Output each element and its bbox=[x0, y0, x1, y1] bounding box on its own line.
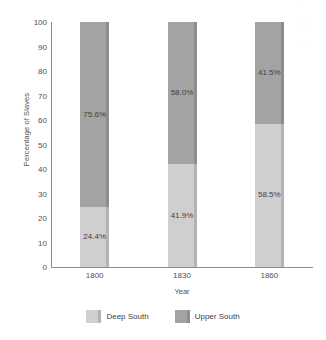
stacked-bar[interactable]: 41.9%58.0% bbox=[168, 22, 197, 267]
bar-segment-deep-south[interactable]: 58.5% bbox=[255, 124, 284, 267]
y-tick-label: 40 bbox=[3, 165, 47, 174]
x-axis-line bbox=[51, 267, 313, 268]
x-axis-title: Year bbox=[51, 287, 313, 296]
x-axis-tick-labels: 180018301860 bbox=[51, 271, 313, 287]
y-tick-label: 100 bbox=[3, 18, 47, 27]
y-tick-label: 80 bbox=[3, 67, 47, 76]
bar-segment-label: 58.0% bbox=[168, 88, 197, 97]
y-tick-label: 0 bbox=[3, 263, 47, 272]
bar-group: 41.9%58.0% bbox=[168, 22, 197, 267]
scan-artifact: ·· bbox=[301, 28, 305, 34]
y-tick-label: 30 bbox=[3, 189, 47, 198]
bar-segment-label: 41.5% bbox=[255, 68, 284, 77]
bar-group: 58.5%41.5% bbox=[255, 22, 284, 267]
bars-layer: 24.4%75.6%41.9%58.0%58.5%41.5% bbox=[51, 22, 313, 267]
legend-label: Deep South bbox=[106, 312, 148, 321]
y-tick-label: 60 bbox=[3, 116, 47, 125]
stacked-bar-chart: Percentage of Slaves 0102030405060708090… bbox=[0, 0, 326, 340]
y-tick-label: 90 bbox=[3, 42, 47, 51]
bar-segment-upper-south[interactable]: 41.5% bbox=[255, 22, 284, 124]
legend-label: Upper South bbox=[195, 312, 240, 321]
bar-segment-label: 75.6% bbox=[80, 110, 109, 119]
legend-swatch bbox=[86, 310, 101, 323]
legend-item-upper-south[interactable]: Upper South bbox=[175, 310, 240, 323]
bar-segment-upper-south[interactable]: 75.6% bbox=[80, 22, 109, 207]
bar-segment-deep-south[interactable]: 24.4% bbox=[80, 207, 109, 267]
y-tick-label: 70 bbox=[3, 91, 47, 100]
bar-segment-deep-south[interactable]: 41.9% bbox=[168, 164, 197, 267]
scan-artifact: ·· bbox=[302, 16, 306, 22]
bar-segment-label: 41.9% bbox=[168, 211, 197, 220]
legend-item-deep-south[interactable]: Deep South bbox=[86, 310, 148, 323]
legend-swatch bbox=[175, 310, 190, 323]
x-tick-label: 1800 bbox=[86, 271, 104, 280]
scan-artifact: ·· bbox=[303, 40, 307, 46]
y-axis-tick-labels: 0102030405060708090100 bbox=[0, 0, 47, 340]
x-tick-label: 1860 bbox=[260, 271, 278, 280]
bar-group: 24.4%75.6% bbox=[80, 22, 109, 267]
chart-legend: Deep SouthUpper South bbox=[0, 310, 326, 323]
stacked-bar[interactable]: 58.5%41.5% bbox=[255, 22, 284, 267]
y-tick-label: 50 bbox=[3, 140, 47, 149]
scan-artifact: ·· bbox=[300, 4, 304, 10]
y-tick-label: 20 bbox=[3, 214, 47, 223]
bar-segment-label: 24.4% bbox=[80, 232, 109, 241]
bar-segment-upper-south[interactable]: 58.0% bbox=[168, 22, 197, 164]
x-tick-label: 1830 bbox=[173, 271, 191, 280]
bar-segment-label: 58.5% bbox=[255, 190, 284, 199]
y-tick-label: 10 bbox=[3, 238, 47, 247]
stacked-bar[interactable]: 24.4%75.6% bbox=[80, 22, 109, 267]
